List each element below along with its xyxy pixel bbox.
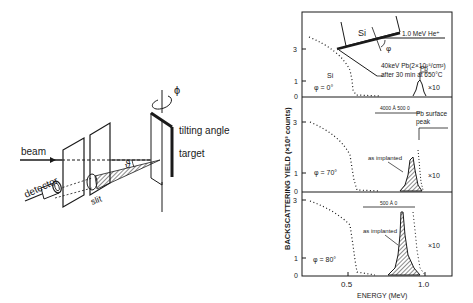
- xtick-0.5: 0.5: [341, 280, 353, 289]
- svg-text:1: 1: [294, 78, 298, 85]
- svg-text:500 Å 0: 500 Å 0: [380, 200, 397, 206]
- chart-frame: [302, 12, 452, 276]
- svg-text:0: 0: [294, 93, 298, 100]
- svg-text:3: 3: [293, 46, 297, 53]
- panel-1-phi-label: φ = 0°: [314, 84, 333, 92]
- svg-text:peak: peak: [416, 118, 431, 126]
- svg-text:×10: ×10: [428, 84, 440, 91]
- svg-text:1: 1: [294, 255, 298, 262]
- svg-text:as implanted: as implanted: [368, 155, 402, 161]
- svg-text:0: 0: [294, 272, 298, 279]
- svg-text:×10: ×10: [428, 242, 440, 249]
- panel-phi-0: Si 1.0 MeV He⁺ φ 40keV Pb(2×10¹⁵/cm²) af…: [309, 16, 446, 96]
- svg-text:Si: Si: [327, 72, 334, 79]
- figure-canvas: ϕ ϑ beam tilting angle target detector s…: [0, 0, 473, 303]
- theta-label: ϑ: [125, 159, 131, 170]
- beam-label: beam: [21, 146, 46, 157]
- svg-text:Pb: Pb: [420, 65, 428, 72]
- beam-arrow-icon: [50, 157, 56, 163]
- phi-label: ϕ: [174, 84, 180, 96]
- svg-text:3: 3: [293, 197, 297, 204]
- svg-text:40keV Pb(2×10¹⁵/cm²): 40keV Pb(2×10¹⁵/cm²): [381, 62, 446, 70]
- svg-text:Pb surface: Pb surface: [416, 110, 447, 117]
- geometry-inset: Si 1.0 MeV He⁺ φ 40keV Pb(2×10¹⁵/cm²) af…: [337, 16, 446, 78]
- svg-text:Si: Si: [358, 28, 366, 38]
- svg-text:4000 Å 500 0: 4000 Å 500 0: [380, 105, 410, 111]
- slit-label: slit: [89, 194, 103, 207]
- svg-text:3: 3: [293, 119, 297, 126]
- svg-text:as implanted: as implanted: [363, 228, 397, 234]
- panel-phi-70: Pb surface peak as implanted φ = 70° ×10: [310, 110, 448, 191]
- panel-2-phi-label: φ = 70°: [314, 169, 337, 177]
- tilting-angle-label: tilting angle: [179, 125, 230, 136]
- target-plate: [151, 113, 162, 185]
- svg-text:φ: φ: [386, 44, 391, 53]
- xtick-1.0: 1.0: [418, 280, 430, 289]
- experimental-schematic: ϕ ϑ beam tilting angle target detector s…: [20, 84, 230, 212]
- svg-text:after 30 min at 650°C: after 30 min at 650°C: [381, 71, 443, 78]
- panel-1-yticks: 3 1 0: [293, 46, 306, 100]
- y-axis-label: BACKSCATTERING YIELD (×10³ counts): [283, 107, 292, 250]
- svg-text:×10: ×10: [428, 172, 440, 179]
- si-spectrum-dots: [310, 201, 375, 275]
- svg-text:1: 1: [294, 170, 298, 177]
- pb-peak: [413, 80, 426, 96]
- svg-text:0: 0: [294, 188, 298, 195]
- rbs-spectra-chart: BACKSCATTERING YIELD (×10³ counts) 3 1 0…: [283, 12, 452, 300]
- aperture-plate: [63, 138, 84, 207]
- as-implanted-peak-80: [388, 212, 420, 275]
- panel-3-phi-label: φ = 80°: [313, 256, 336, 264]
- panel-2-yticks: 3 1 0: [293, 119, 306, 195]
- panel-3-yticks: 3 1 0: [293, 197, 306, 279]
- panel-phi-80: as implanted φ = 80° ×10: [310, 201, 440, 275]
- x-axis-label: ENERGY (MeV): [357, 292, 407, 300]
- svg-text:1.0 MeV He⁺: 1.0 MeV He⁺: [402, 30, 440, 37]
- target-label: target: [179, 148, 205, 159]
